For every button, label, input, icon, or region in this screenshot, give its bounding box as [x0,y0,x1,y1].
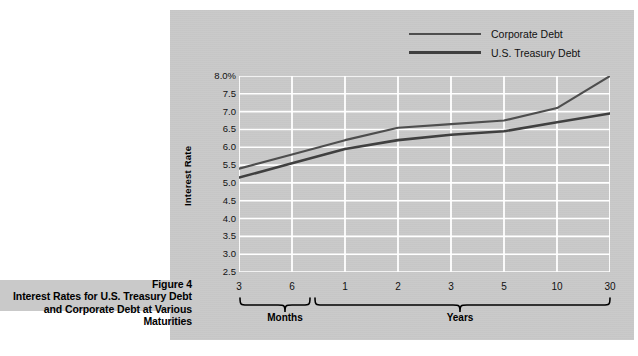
x-axis-tick-labels: 3612351030 [239,282,610,296]
y-axis-tick-label: 5.0 [223,178,236,188]
x-axis-tick-label: 3 [448,282,454,292]
axis-group-braces [225,297,625,313]
y-axis-tick-label: 3.0 [223,249,236,259]
caption-line-1: Interest Rates for U.S. Treasury [13,290,166,302]
legend-swatch-treasury-icon [409,51,481,54]
y-axis-tick-label: 7.5 [223,89,236,99]
plot-area [239,76,610,272]
legend-entry-corporate-debt: Corporate Debt [409,24,624,43]
y-axis-tick-labels: 8.0%7.57.06.56.05.55.04.54.03.53.02.5 [196,70,236,282]
axis-group-labels: MonthsYears [225,313,625,327]
x-axis-tick-label: 6 [289,282,295,292]
legend-swatch-corporate-icon [409,33,481,35]
figure-number: Figure 4 [0,278,192,290]
x-axis-tick-label: 1 [342,282,348,292]
y-axis-tick-label: 4.0 [223,214,236,224]
brace-years-icon [315,298,610,312]
y-axis-tick-label: 5.5 [223,160,236,170]
legend-label-treasury: U.S. Treasury Debt [491,47,580,59]
y-axis-tick-label: 3.5 [223,232,236,242]
y-axis-tick-label: 6.5 [223,125,236,135]
figure-root: Corporate Debt U.S. Treasury Debt Intere… [0,0,638,356]
plot-svg [239,76,610,272]
y-axis-tick-label: 7.0 [223,107,236,117]
x-axis-tick-label: 3 [236,282,242,292]
figure-caption: Figure 4 Interest Rates for U.S. Treasur… [0,278,192,328]
y-axis-tick-label: 2.5 [223,267,236,277]
x-axis-tick-label: 10 [551,282,562,292]
y-axis-tick-label: 4.5 [223,196,236,206]
gridlines [239,76,610,272]
legend-entry-treasury-debt: U.S. Treasury Debt [409,43,624,62]
legend-label-corporate: Corporate Debt [491,28,563,40]
x-axis-tick-label: 2 [395,282,401,292]
data-series-group [239,76,610,178]
brace-months-icon [240,298,310,312]
chart-legend: Corporate Debt U.S. Treasury Debt [409,24,624,62]
x-axis-tick-label: 30 [604,282,615,292]
y-axis-tick-label: 8.0% [214,71,236,81]
series-line-u-s-treasury-debt [239,113,610,177]
x-axis-tick-label: 5 [501,282,507,292]
y-axis-title: Interest Rate [180,118,194,234]
braces-svg [225,297,625,313]
axis-group-label-years: Years [447,313,474,323]
axis-group-label-months: Months [267,313,303,323]
y-axis-tick-label: 6.0 [223,143,236,153]
